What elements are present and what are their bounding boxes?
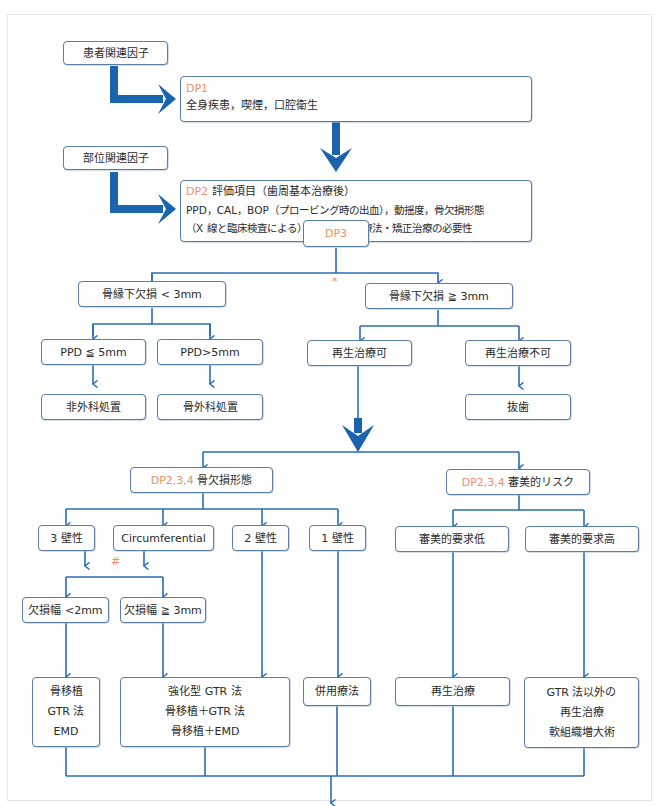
nonsurgical-label: 非外科処置 [66, 399, 121, 416]
dp3-label: DP3 [325, 225, 347, 242]
width-small-box: 欠損幅 <2mm [22, 597, 109, 623]
treatment-b-line: 骨移植＋GTR 法 [165, 702, 246, 722]
site-factor-box: 部位関連因子 [63, 146, 168, 170]
esthetic-low-box: 審美的要求低 [395, 526, 509, 552]
morphology-dp-label: DP2,3,4 [151, 474, 194, 487]
regen-therapy-box: 再生治療 [395, 677, 510, 706]
patient-factor-box: 患者関連因子 [63, 41, 168, 65]
wall2-box: 2 壁性 [232, 525, 289, 551]
osseous-surgery-label: 骨外科処置 [183, 399, 238, 416]
wall1-box: 1 壁性 [309, 525, 366, 551]
dp2-title: 評価項目（歯周基本治療後） [212, 185, 355, 198]
dp2-label: DP2 [186, 185, 208, 198]
ppd-low-box: PPD ≦ 5mm [41, 339, 146, 365]
width-large-box: 欠損幅 ≧ 3mm [120, 597, 206, 623]
esthetic-box: DP2,3,4 審美的リスク [446, 469, 590, 495]
treatment-b-line: 骨移植＋EMD [171, 722, 240, 742]
esthetic-high-box: 審美的要求高 [525, 526, 639, 552]
wall3-box: 3 壁性 [38, 525, 95, 551]
circumferential-label: Circumferential [121, 530, 206, 547]
treatment-b-box: 強化型 GTR 法 骨移植＋GTR 法 骨移植＋EMD [120, 677, 290, 747]
width-small-label: 欠損幅 <2mm [28, 602, 102, 619]
defect-small-label: 骨縁下欠損 < 3mm [102, 286, 202, 303]
ppd-high-box: PPD>5mm [157, 339, 263, 365]
defect-large-label: 骨縁下欠損 ≧ 3mm [389, 288, 489, 305]
non-gtr-therapy-line: GTR 法以外の [547, 683, 617, 703]
dp2-line1: PPD，CAL，BOP（プロービング時の出血），動揺度，骨欠損形態 [186, 201, 484, 219]
dp2-title-row: DP2 評価項目（歯周基本治療後） [186, 183, 355, 201]
dp3-asterisk: * [332, 275, 338, 288]
defect-small-box: 骨縁下欠損 < 3mm [78, 281, 226, 307]
dp3-box: DP3 [303, 220, 369, 247]
regen-ng-label: 再生治療不可 [485, 345, 551, 362]
esthetic-label: 審美的リスク [508, 476, 574, 489]
morphology-box: DP2,3,4 骨欠損形態 [130, 467, 273, 493]
treatment-b-line: 強化型 GTR 法 [168, 682, 242, 702]
esthetic-low-label: 審美的要求低 [419, 531, 485, 548]
extraction-label: 抜歯 [507, 399, 529, 416]
ppd-high-label: PPD>5mm [180, 344, 239, 361]
osseous-surgery-box: 骨外科処置 [157, 394, 263, 420]
treatment-a-box: 骨移植 GTR 法 EMD [32, 677, 100, 747]
treatment-a-line: GTR 法 [48, 702, 85, 722]
ppd-low-label: PPD ≦ 5mm [60, 344, 126, 361]
regen-ok-box: 再生治療可 [307, 340, 412, 366]
regen-ng-box: 再生治療不可 [465, 340, 571, 366]
esthetic-row: DP2,3,4 審美的リスク [462, 474, 575, 491]
non-gtr-therapy-box: GTR 法以外の 再生治療 軟組織増大術 [524, 677, 639, 748]
morphology-row: DP2,3,4 骨欠損形態 [151, 472, 253, 489]
regen-ok-label: 再生治療可 [332, 345, 387, 362]
width-hash-mark: # [111, 555, 120, 568]
regen-therapy-label: 再生治療 [431, 683, 475, 700]
dp1-box: DP1 全身疾患，喫煙，口腔衛生 [180, 76, 532, 122]
esthetic-dp-label: DP2,3,4 [462, 476, 505, 489]
site-factor-label: 部位関連因子 [83, 150, 149, 167]
extraction-box: 抜歯 [465, 394, 571, 420]
non-gtr-therapy-line: 再生治療 [560, 703, 604, 723]
wall1-label: 1 壁性 [321, 530, 354, 547]
patient-factor-label: 患者関連因子 [83, 45, 149, 62]
combined-therapy-label: 併用療法 [315, 683, 359, 700]
defect-large-box: 骨縁下欠損 ≧ 3mm [365, 283, 513, 309]
combined-therapy-box: 併用療法 [303, 677, 371, 706]
circumferential-box: Circumferential [113, 525, 214, 551]
esthetic-high-label: 審美的要求高 [549, 531, 615, 548]
morphology-label: 骨欠損形態 [197, 474, 252, 487]
dp1-label: DP1 [186, 80, 208, 97]
wall2-label: 2 壁性 [244, 530, 277, 547]
non-gtr-therapy-line: 軟組織増大術 [549, 723, 615, 743]
width-large-label: 欠損幅 ≧ 3mm [124, 602, 202, 619]
nonsurgical-box: 非外科処置 [41, 394, 146, 420]
dp1-text: 全身疾患，喫煙，口腔衛生 [186, 97, 318, 114]
treatment-a-line: EMD [54, 722, 79, 742]
wall3-label: 3 壁性 [50, 530, 83, 547]
treatment-a-line: 骨移植 [50, 682, 83, 702]
